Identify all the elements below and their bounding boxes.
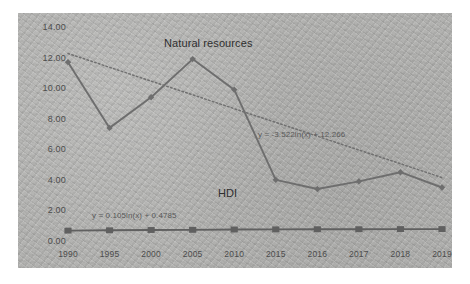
data-point-marker [356, 178, 362, 184]
natural-resources-trendline [68, 54, 442, 178]
data-point-marker [231, 227, 238, 233]
chart-figure: 0.002.004.006.008.0010.0012.0014.00 1990… [0, 0, 470, 284]
hdi-label: HDI [218, 187, 237, 199]
data-point-marker [272, 226, 279, 232]
data-point-marker [106, 227, 113, 233]
data-point-marker [397, 169, 403, 175]
natural-resources-equation: y = -3.522ln(x) + 12.266 [258, 130, 345, 139]
chart-canvas [18, 13, 452, 268]
data-point-marker [314, 226, 321, 232]
hdi-equation: y = 0.105ln(x) + 0.4785 [92, 211, 177, 220]
data-point-marker [439, 184, 445, 190]
series-line [68, 59, 442, 189]
data-point-marker [148, 227, 155, 233]
data-point-marker [438, 226, 445, 232]
data-point-marker [273, 177, 279, 183]
data-point-marker [189, 227, 196, 233]
chart-plot-area: 0.002.004.006.008.0010.0012.0014.00 1990… [18, 13, 452, 268]
data-point-marker [355, 226, 362, 232]
data-point-marker [64, 228, 71, 234]
data-point-marker [397, 226, 404, 232]
series-line [68, 229, 442, 231]
data-point-marker [314, 186, 320, 192]
natural-resources-label: Natural resources [164, 37, 253, 49]
